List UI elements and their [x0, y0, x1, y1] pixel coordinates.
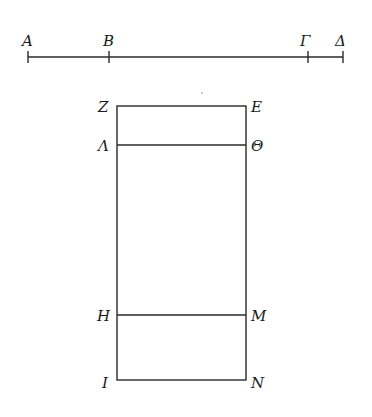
- label-a: A: [20, 32, 33, 50]
- label-theta: Θ: [251, 137, 263, 155]
- label-m: M: [250, 307, 267, 325]
- label-i: I: [101, 374, 109, 392]
- label-z: Z: [97, 98, 109, 116]
- label-b: B: [102, 32, 114, 50]
- rectangle-outline: [117, 106, 246, 380]
- label-n: N: [250, 374, 265, 392]
- label-delta: Δ: [334, 32, 346, 50]
- label-gamma: Γ: [299, 32, 311, 50]
- label-h: H: [96, 307, 111, 325]
- label-e: E: [250, 98, 262, 116]
- label-lambda: Λ: [96, 137, 109, 155]
- segment-ad: A B Γ Δ: [20, 32, 346, 63]
- diagram-canvas: A B Γ Δ Z E Λ Θ H M I N: [0, 0, 372, 417]
- stray-dot: [201, 92, 203, 94]
- rectangle-zein: Z E Λ Θ H M I N: [96, 98, 267, 392]
